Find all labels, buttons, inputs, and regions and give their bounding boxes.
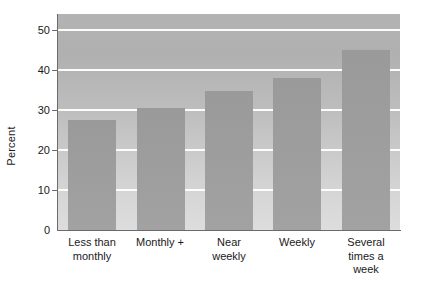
x-axis-label: Weekly	[263, 236, 331, 250]
y-tick-mark-40	[52, 70, 58, 71]
x-axis-label-line: Near	[217, 236, 241, 248]
x-axis-label-line: weekly	[212, 250, 246, 262]
x-axis-label-line: Several	[347, 236, 384, 248]
x-axis-label-line: week	[353, 263, 379, 275]
x-axis-label-line: Less than	[68, 236, 116, 248]
bar	[137, 108, 185, 230]
y-tick-label-0: 0	[14, 224, 50, 236]
x-axis-label: Less thanmonthly	[58, 236, 126, 263]
x-axis-label-line: Monthly +	[136, 236, 184, 248]
x-axis-line	[57, 230, 401, 231]
y-tick-label-40: 40	[14, 64, 50, 76]
x-axis-label-line: monthly	[73, 250, 112, 262]
y-axis-line	[57, 14, 58, 231]
y-tick-label-10: 10	[14, 184, 50, 196]
bar	[205, 91, 253, 230]
bar	[273, 78, 321, 230]
y-tick-label-30: 30	[14, 104, 50, 116]
y-tick-label-20: 20	[14, 144, 50, 156]
bar	[342, 50, 390, 230]
plot-area	[58, 14, 400, 230]
x-axis-label-line: Weekly	[279, 236, 315, 248]
y-tick-mark-20	[52, 150, 58, 151]
x-axis-label: Monthly +	[126, 236, 194, 250]
y-tick-label-50: 50	[14, 24, 50, 36]
bar-chart: Percent 01020304050 Less thanmonthlyMont…	[0, 0, 421, 292]
bar	[68, 120, 116, 230]
x-axis-label: Severaltimes aweek	[332, 236, 400, 277]
x-axis-label-line: times a	[348, 250, 383, 262]
y-tick-mark-10	[52, 190, 58, 191]
y-tick-mark-30	[52, 110, 58, 111]
gridline-50	[58, 29, 400, 31]
x-axis-label: Nearweekly	[195, 236, 263, 263]
y-tick-mark-50	[52, 30, 58, 31]
